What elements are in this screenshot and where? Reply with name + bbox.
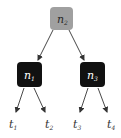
leaf-t4-sub: 4 <box>110 124 115 131</box>
node-n1: n1 <box>17 62 42 87</box>
node-n2-sub: 2 <box>63 19 68 26</box>
node-n3-base: n <box>87 69 94 82</box>
edge-n2-n3 <box>69 30 84 60</box>
edge-n3-t3 <box>80 88 88 112</box>
leaf-t3-sub: 3 <box>77 124 81 131</box>
node-n1-sub: 1 <box>31 75 35 82</box>
edge-n3-t4 <box>98 88 107 112</box>
leaf-t3: t3 <box>73 118 81 131</box>
svg-text:t3: t3 <box>73 118 81 131</box>
leaf-t1-sub: 1 <box>13 124 17 131</box>
leaf-t4: t4 <box>107 118 115 131</box>
node-n2: n2 <box>50 7 73 30</box>
edge-n1-t1 <box>16 88 24 112</box>
svg-text:t2: t2 <box>45 118 53 131</box>
tree-diagram: n2 n1 n3 t1 t2 t3 t4 <box>0 0 121 138</box>
node-n3: n3 <box>80 62 105 87</box>
svg-text:t4: t4 <box>107 118 115 131</box>
node-n2-base: n <box>57 13 64 26</box>
svg-text:t1: t1 <box>9 118 17 131</box>
edge-n2-n1 <box>38 30 53 60</box>
edge-n1-t2 <box>34 88 45 112</box>
node-n1-base: n <box>24 69 31 82</box>
leaf-t2-sub: 2 <box>48 124 53 131</box>
leaf-t2: t2 <box>45 118 53 131</box>
leaf-t1: t1 <box>9 118 17 131</box>
node-n3-sub: 3 <box>94 75 98 82</box>
